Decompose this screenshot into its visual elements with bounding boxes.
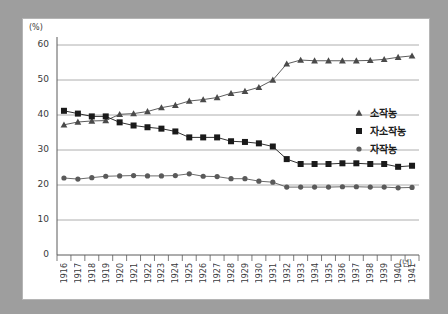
data-point-marker bbox=[228, 176, 233, 181]
data-point-marker bbox=[368, 185, 373, 190]
legend-item[interactable]: 자작농 bbox=[353, 141, 397, 156]
data-point-marker bbox=[353, 160, 359, 166]
data-point-marker bbox=[145, 173, 150, 178]
data-point-marker bbox=[409, 52, 416, 58]
data-point-marker bbox=[255, 84, 262, 90]
data-series-layer bbox=[61, 52, 416, 190]
data-point-marker bbox=[312, 161, 318, 167]
data-point-marker bbox=[242, 176, 247, 181]
data-point-marker bbox=[242, 139, 248, 145]
data-point-marker bbox=[201, 174, 206, 179]
data-point-marker bbox=[256, 179, 261, 184]
legend-item[interactable]: 자소작농 bbox=[353, 123, 406, 138]
data-point-marker bbox=[256, 140, 262, 146]
data-point-marker bbox=[117, 119, 123, 125]
data-point-marker bbox=[215, 174, 220, 179]
legend-label: 자작농 bbox=[370, 141, 397, 156]
data-series bbox=[61, 171, 414, 190]
data-point-marker bbox=[382, 185, 387, 190]
data-point-marker bbox=[214, 134, 220, 140]
data-point-marker bbox=[200, 134, 206, 140]
data-point-marker bbox=[173, 173, 178, 178]
data-point-marker bbox=[186, 134, 192, 140]
data-point-marker bbox=[356, 109, 363, 115]
data-point-marker bbox=[284, 185, 289, 190]
data-point-marker bbox=[396, 185, 401, 190]
data-point-marker bbox=[298, 185, 303, 190]
data-point-marker bbox=[131, 173, 136, 178]
legend-marker-triangle-icon bbox=[353, 107, 365, 119]
data-point-marker bbox=[381, 161, 387, 167]
data-point-marker bbox=[367, 161, 373, 167]
data-point-marker bbox=[158, 126, 164, 132]
data-point-marker bbox=[270, 144, 276, 150]
chart-panel: (%) (년) 0102030405060 191619171918191919… bbox=[22, 18, 430, 300]
data-point-marker bbox=[354, 184, 359, 189]
data-point-marker bbox=[172, 128, 178, 134]
data-point-marker bbox=[131, 123, 137, 129]
data-point-marker bbox=[409, 185, 414, 190]
data-point-marker bbox=[103, 113, 109, 119]
data-point-marker bbox=[228, 138, 234, 144]
data-point-marker bbox=[159, 173, 164, 178]
data-point-marker bbox=[339, 160, 345, 166]
plot-area bbox=[23, 19, 429, 299]
data-point-marker bbox=[89, 175, 94, 180]
legend-marker-circle-icon bbox=[353, 143, 365, 155]
data-point-marker bbox=[145, 124, 151, 130]
data-point-marker bbox=[395, 164, 401, 170]
data-point-marker bbox=[356, 146, 361, 151]
data-point-marker bbox=[103, 174, 108, 179]
data-point-marker bbox=[356, 128, 362, 134]
legend-label: 소작농 bbox=[370, 105, 397, 120]
legend-item[interactable]: 소작농 bbox=[353, 105, 397, 120]
data-point-marker bbox=[298, 161, 304, 167]
data-point-marker bbox=[61, 175, 66, 180]
data-point-marker bbox=[270, 180, 275, 185]
data-point-marker bbox=[75, 176, 80, 181]
legend-marker-square-icon bbox=[353, 125, 365, 137]
data-point-marker bbox=[297, 57, 304, 63]
data-point-marker bbox=[117, 173, 122, 178]
series-line bbox=[64, 174, 412, 188]
legend-label: 자소작농 bbox=[370, 123, 406, 138]
data-point-marker bbox=[284, 156, 290, 162]
data-point-marker bbox=[340, 184, 345, 189]
data-point-marker bbox=[326, 161, 332, 167]
data-point-marker bbox=[326, 185, 331, 190]
data-point-marker bbox=[312, 185, 317, 190]
x-axis-ticks bbox=[57, 255, 419, 261]
data-point-marker bbox=[75, 111, 81, 117]
data-point-marker bbox=[409, 163, 415, 169]
data-point-marker bbox=[89, 113, 95, 119]
data-point-marker bbox=[187, 171, 192, 176]
data-point-marker bbox=[61, 108, 67, 114]
